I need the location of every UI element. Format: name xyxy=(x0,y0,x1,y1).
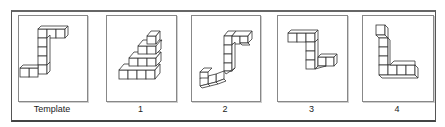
label-option-3: 3 xyxy=(277,104,346,114)
cube-figure-2-icon xyxy=(192,16,260,101)
label-option-4: 4 xyxy=(362,104,432,114)
panel-option-3[interactable] xyxy=(277,15,348,102)
label-option-1: 1 xyxy=(106,104,175,114)
cube-figure-1-icon xyxy=(107,16,176,101)
label-template: Template xyxy=(18,104,86,114)
panel-option-4[interactable] xyxy=(362,15,434,102)
panel-option-2[interactable] xyxy=(191,15,261,102)
cube-figure-template-icon xyxy=(19,16,87,101)
panel-option-1[interactable] xyxy=(106,15,177,102)
label-option-2: 2 xyxy=(191,104,259,114)
panel-template[interactable] xyxy=(18,15,88,102)
cube-figure-4-icon xyxy=(363,16,433,101)
cube-figure-3-icon xyxy=(278,16,347,101)
